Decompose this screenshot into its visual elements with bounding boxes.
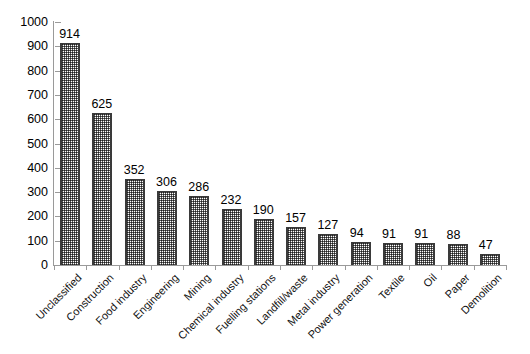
- bar-value-label: 286: [188, 181, 209, 194]
- y-tick-label: 1000: [0, 16, 48, 29]
- bar-value-label: 157: [285, 212, 306, 225]
- x-tick-mark: [280, 265, 281, 270]
- bar-value-label: 190: [253, 204, 274, 217]
- y-tick-label: 200: [0, 210, 48, 223]
- bar-value-label: 232: [221, 194, 242, 207]
- y-tick-label: 100: [0, 235, 48, 248]
- bar[interactable]: [286, 227, 306, 265]
- category-label: Oil: [422, 272, 439, 289]
- category-label: Mining: [182, 272, 213, 303]
- bar-value-label: 914: [59, 28, 80, 41]
- y-tick-label: 0: [0, 259, 48, 272]
- category-label: Textile: [377, 272, 407, 302]
- x-tick-mark: [441, 265, 442, 270]
- bar-value-label: 94: [350, 227, 364, 240]
- bar[interactable]: [189, 196, 209, 265]
- y-tick-label: 600: [0, 113, 48, 126]
- y-tick-mark: [55, 265, 61, 266]
- bar[interactable]: [60, 43, 80, 265]
- x-tick-mark: [506, 265, 507, 270]
- bar[interactable]: [222, 209, 242, 265]
- category-label: Power generation: [306, 272, 375, 341]
- category-label: Paper: [443, 272, 472, 301]
- bar-value-label: 91: [382, 228, 396, 241]
- x-tick-mark: [54, 265, 55, 270]
- bar[interactable]: [383, 243, 403, 265]
- bar-value-label: 47: [479, 239, 493, 252]
- x-tick-mark: [474, 265, 475, 270]
- bar[interactable]: [415, 243, 435, 265]
- bar[interactable]: [480, 254, 500, 265]
- x-tick-mark: [215, 265, 216, 270]
- bar[interactable]: [254, 219, 274, 265]
- bar[interactable]: [351, 242, 371, 265]
- bar[interactable]: [92, 113, 112, 265]
- y-tick-label: 800: [0, 65, 48, 78]
- y-tick-label: 700: [0, 89, 48, 102]
- bar[interactable]: [318, 234, 338, 265]
- y-tick-label: 300: [0, 186, 48, 199]
- y-tick-label: 500: [0, 138, 48, 151]
- bar[interactable]: [157, 191, 177, 265]
- bar[interactable]: [125, 179, 145, 265]
- bar-value-label: 625: [91, 98, 112, 111]
- bar-value-label: 127: [317, 219, 338, 232]
- x-tick-mark: [86, 265, 87, 270]
- x-tick-mark: [377, 265, 378, 270]
- y-tick-label: 900: [0, 40, 48, 53]
- bar-value-label: 88: [447, 229, 461, 242]
- bar-value-label: 91: [414, 228, 428, 241]
- x-tick-mark: [183, 265, 184, 270]
- x-tick-mark: [248, 265, 249, 270]
- bar-value-label: 352: [124, 164, 145, 177]
- x-tick-mark: [409, 265, 410, 270]
- bar[interactable]: [448, 244, 468, 265]
- bar-value-label: 306: [156, 176, 177, 189]
- x-tick-mark: [119, 265, 120, 270]
- x-tick-mark: [151, 265, 152, 270]
- y-tick-label: 400: [0, 162, 48, 175]
- x-tick-mark: [312, 265, 313, 270]
- bars-container: [54, 22, 506, 265]
- x-tick-mark: [345, 265, 346, 270]
- bar-chart: 01002003004005006007008009001000 9146253…: [0, 0, 530, 354]
